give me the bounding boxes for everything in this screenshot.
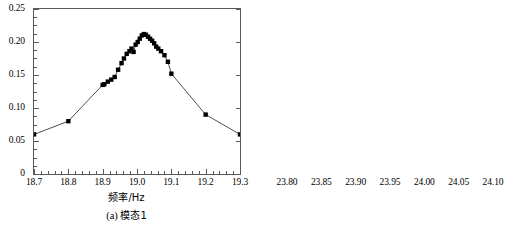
panel-mode-2: 00.020.040.060.080.100.120.140.16 频率/Hz … bbox=[253, 0, 506, 232]
data-point-marker bbox=[66, 119, 70, 123]
x-tick-label: 23.90 bbox=[345, 178, 366, 188]
panel-mode-1: 00.050.100.150.200.25 频率/Hz (a) 模态1 bbox=[0, 0, 253, 232]
x-tick-label: 23.95 bbox=[380, 178, 401, 188]
data-point-marker bbox=[122, 56, 126, 60]
caption-tag-mode-1: (a) bbox=[106, 210, 118, 221]
data-point-marker bbox=[34, 132, 36, 136]
plot-area-mode-1 bbox=[33, 8, 241, 175]
caption-mode-1: (a) 模态1 bbox=[0, 210, 253, 222]
x-tick-label: 19.3 bbox=[232, 178, 248, 188]
data-point-marker bbox=[159, 49, 163, 53]
y-tick-label: 0.20 bbox=[9, 37, 25, 47]
x-tick-label: 19.2 bbox=[198, 178, 214, 188]
y-tick-label: 0.15 bbox=[9, 70, 25, 80]
data-point-marker bbox=[112, 75, 116, 79]
x-tick-label: 18.9 bbox=[95, 178, 111, 188]
data-point-marker bbox=[169, 71, 173, 75]
x-axis-labels: 18.718.818.919.019.119.219.323.8023.8523… bbox=[0, 178, 506, 192]
data-point-marker bbox=[116, 68, 120, 72]
plot-canvas-mode-1 bbox=[34, 9, 240, 174]
figure-two-panel: 00.050.100.150.200.25 频率/Hz (a) 模态1 00.0… bbox=[0, 0, 506, 232]
x-tick-label: 24.05 bbox=[448, 178, 469, 188]
x-tick-label: 19.0 bbox=[129, 178, 145, 188]
caption-name-mode-1: 模态1 bbox=[120, 210, 146, 221]
data-series-line bbox=[34, 34, 240, 134]
x-tick-label: 23.85 bbox=[311, 178, 332, 188]
x-tick-label: 23.80 bbox=[277, 178, 298, 188]
x-axis-title-text-mode-1: 频率/Hz bbox=[108, 192, 144, 203]
y-tick-label: 0.25 bbox=[9, 4, 25, 14]
x-tick-label: 24.00 bbox=[414, 178, 435, 188]
y-tick-label: 0.10 bbox=[9, 103, 25, 113]
x-tick-label: 24.10 bbox=[483, 178, 504, 188]
x-tick-label: 19.1 bbox=[163, 178, 179, 188]
x-tick-label: 18.7 bbox=[26, 178, 42, 188]
data-point-marker bbox=[238, 132, 240, 136]
data-point-marker bbox=[131, 50, 135, 54]
data-point-marker bbox=[119, 61, 123, 65]
data-point-marker bbox=[203, 112, 207, 116]
data-point-marker bbox=[166, 60, 170, 64]
x-tick-label: 18.8 bbox=[60, 178, 76, 188]
x-axis-title-mode-1: 频率/Hz bbox=[0, 192, 253, 204]
y-tick-label: 0.05 bbox=[9, 136, 25, 146]
data-point-marker bbox=[162, 53, 166, 57]
